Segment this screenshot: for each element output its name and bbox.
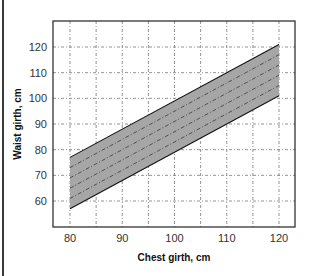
y-tick-label: 70 xyxy=(35,169,47,181)
x-tick-label: 110 xyxy=(218,232,236,244)
y-tick-label: 90 xyxy=(35,118,47,130)
y-tick-label: 110 xyxy=(29,67,47,79)
band-dashed-line xyxy=(70,65,279,178)
x-tick-label: 100 xyxy=(165,232,183,244)
y-tick-label: 80 xyxy=(35,144,47,156)
y-tick-label: 100 xyxy=(29,92,47,104)
y-tick-label: 120 xyxy=(29,41,47,53)
x-axis-label: Chest girth, cm xyxy=(138,252,211,263)
x-tick-label: 80 xyxy=(64,232,76,244)
x-tick-label: 90 xyxy=(116,232,128,244)
y-axis-label: Waist girth, cm xyxy=(12,88,23,159)
chart: 607080901001101208090100110120Chest girt… xyxy=(0,0,311,276)
y-tick-label: 60 xyxy=(35,195,47,207)
x-tick-label: 120 xyxy=(270,232,288,244)
